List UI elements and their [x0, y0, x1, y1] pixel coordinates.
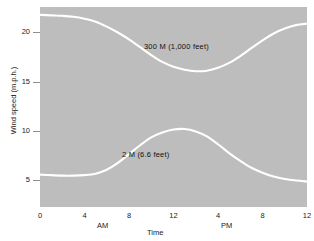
x-axis-title: Time — [147, 228, 163, 237]
y-tick: 20 — [0, 32, 40, 33]
x-tick-label: 4 — [73, 211, 97, 220]
x-tick-label: 8 — [117, 211, 141, 220]
y-tick: 10 — [0, 131, 40, 132]
series-annotation-300m: 300 M (1,000 feet) — [144, 42, 209, 51]
y-axis-title: Wind speed (m.p.h.) — [9, 36, 18, 166]
x-tick: 4 — [218, 207, 219, 208]
x-tick-label: 8 — [251, 211, 275, 220]
y-tick-mark — [33, 180, 40, 181]
x-tick-label: 0 — [28, 211, 52, 220]
x-tick: 8 — [129, 207, 130, 208]
y-tick-label: 10 — [22, 126, 30, 135]
x-tick-label: 12 — [295, 211, 314, 220]
y-tick: 15 — [0, 82, 40, 83]
x-tick: 12 — [307, 207, 308, 208]
x-tick-label: 4 — [206, 211, 230, 220]
x-tick-label: 12 — [162, 211, 186, 220]
y-tick-label: 15 — [22, 77, 30, 86]
y-tick-mark — [33, 32, 40, 33]
line-series-2m — [40, 129, 307, 182]
plot-area: 300 M (1,000 feet) 2 M (6.6 feet) — [40, 7, 307, 207]
y-tick: 5 — [0, 180, 40, 181]
x-tick: 8 — [263, 207, 264, 208]
y-tick-label: 20 — [22, 27, 30, 36]
wind-speed-chart: 300 M (1,000 feet) 2 M (6.6 feet) 510152… — [0, 0, 314, 241]
y-tick-label: 5 — [26, 175, 30, 184]
x-tick: 12 — [174, 207, 175, 208]
x-axis-period-am: AM — [97, 221, 108, 230]
y-tick-mark — [33, 82, 40, 83]
series-annotation-2m: 2 M (6.6 feet) — [122, 150, 169, 159]
y-tick-mark — [33, 131, 40, 132]
x-tick: 4 — [85, 207, 86, 208]
x-tick: 0 — [40, 207, 41, 208]
series-lines — [40, 7, 307, 207]
x-axis-period-pm: PM — [221, 221, 232, 230]
